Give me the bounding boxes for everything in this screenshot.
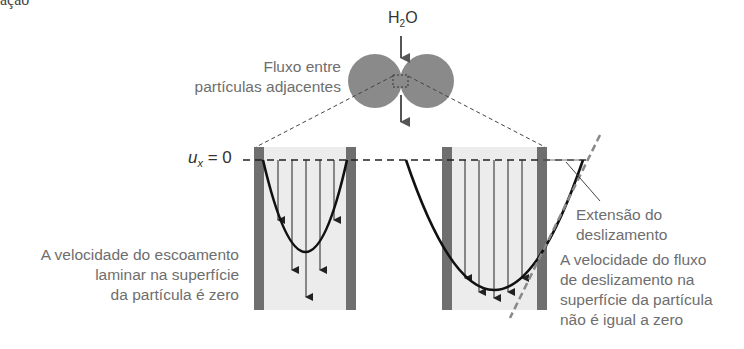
flow-between-label: Fluxo entre partículas adjacentes [195, 57, 341, 97]
ux-zero-label: ux = 0 [188, 148, 232, 173]
right-wall-b [537, 147, 547, 310]
left-channel [254, 147, 356, 310]
water-label: H2O [388, 8, 418, 34]
left-caption: A velocidade do escoamento laminar na su… [41, 245, 239, 305]
left-wall-a [254, 147, 264, 310]
slip-extension-label: Extensão do deslizamento [576, 205, 667, 245]
right-caption: A velocidade do fluxo de deslizamento na… [560, 250, 713, 330]
right-wall-a [442, 147, 452, 310]
left-wall-b [346, 147, 356, 310]
particle-left [348, 54, 402, 108]
